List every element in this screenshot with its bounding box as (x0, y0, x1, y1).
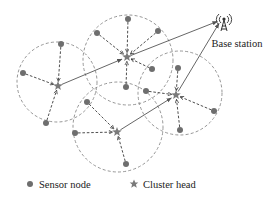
member-link-arrow (149, 91, 172, 94)
link-bottom-to-right (120, 98, 171, 130)
cluster-head-star-left (53, 81, 63, 90)
base-station-label: Base station (211, 38, 263, 49)
member-link-arrow (127, 22, 128, 53)
member-link-arrow (180, 97, 211, 110)
link-right-to-base_station (178, 23, 219, 91)
member-link-arrow (58, 47, 60, 82)
cluster-ring-right (138, 51, 222, 135)
cluster-head-star-right (171, 90, 181, 99)
member-link-arrow (26, 74, 54, 84)
inter-cluster-links (62, 21, 219, 129)
intra-cluster-links (26, 22, 211, 161)
member-link-arrow (177, 99, 180, 127)
member-link-arrow (126, 61, 127, 84)
sensor-node (20, 70, 26, 76)
sensor-node (84, 99, 90, 105)
cluster-rings (17, 15, 222, 172)
sensor-node (155, 28, 161, 34)
cluster-head-star-top (122, 52, 132, 61)
sensor-node (123, 84, 129, 90)
sensor-node (125, 16, 131, 22)
member-link-arrow (131, 59, 149, 68)
legend-cluster-head-label: Cluster head (143, 179, 197, 190)
sensor-node (175, 65, 181, 71)
member-link-arrow (89, 104, 114, 129)
member-link-arrow (78, 132, 113, 133)
cluster-ring-bottom (73, 82, 163, 172)
wsn-cluster-diagram: Base station Sensor node Cluster head (0, 0, 276, 197)
sensor-node (143, 88, 149, 94)
sensor-node (58, 41, 64, 47)
member-link-arrow (99, 35, 123, 54)
sensor-node (149, 66, 155, 72)
sensor-nodes (20, 16, 217, 167)
legend-sensor-node-label: Sensor node (39, 179, 91, 190)
cluster-heads (53, 52, 181, 136)
sensor-node (177, 127, 183, 133)
cluster-head-legend-icon (130, 180, 139, 188)
antenna-tower-icon (216, 14, 231, 31)
member-link-arrow (176, 71, 177, 91)
sensor-node (94, 30, 100, 36)
link-top-to-base_station (131, 21, 218, 55)
cluster-ring-left (17, 42, 97, 122)
legend: Sensor node Cluster head (27, 179, 197, 190)
sensor-node (72, 130, 78, 136)
base-station: Base station (211, 14, 263, 49)
sensor-node (123, 161, 129, 167)
member-link-arrow (47, 90, 57, 120)
sensor-node (43, 120, 49, 126)
sensor-node (211, 108, 217, 114)
sensor-node-legend-icon (27, 181, 33, 187)
member-link-arrow (118, 136, 125, 161)
cluster-head-star-bottom (112, 127, 122, 136)
